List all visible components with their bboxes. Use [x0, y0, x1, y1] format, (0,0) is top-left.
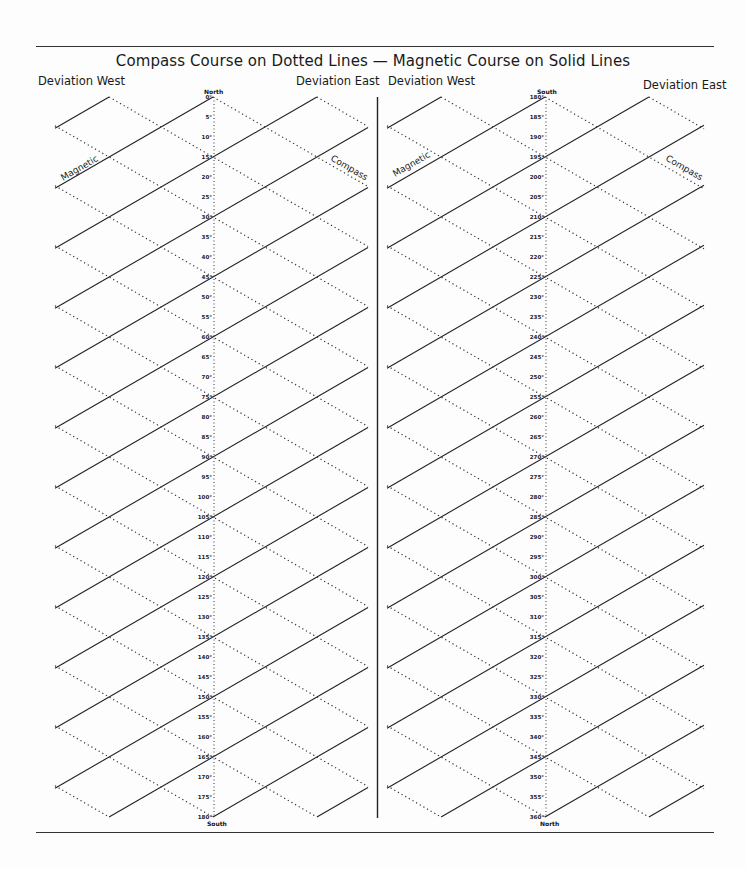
heading-tick-label: 115° — [198, 554, 212, 560]
heading-tick-label: 165° — [198, 754, 212, 760]
heading-tick-label: 275° — [530, 474, 544, 480]
heading-tick-label: 155° — [198, 714, 212, 720]
heading-tick-label: 175° — [198, 794, 212, 800]
heading-tick-label: 200° — [530, 174, 544, 180]
heading-tick-label: 205° — [530, 194, 544, 200]
left-heading-scale: 0°5°10°15°20°25°30°35°40°45°50°55°60°65°… — [198, 94, 214, 820]
heading-tick-label: 140° — [198, 654, 212, 660]
heading-tick-label: 190° — [530, 134, 544, 140]
heading-tick-label: 235° — [530, 314, 544, 320]
heading-tick-label: 210° — [530, 214, 544, 220]
heading-tick-label: 30° — [202, 214, 213, 220]
heading-tick-label: 195° — [530, 154, 544, 160]
heading-tick-label: 340° — [530, 734, 544, 740]
heading-tick-label: 295° — [530, 554, 544, 560]
heading-tick-label: 55° — [202, 314, 213, 320]
heading-tick-label: 100° — [198, 494, 212, 500]
heading-tick-label: 330° — [530, 694, 544, 700]
magnetic-course-line — [55, 97, 109, 128]
heading-tick-label: 110° — [198, 534, 212, 540]
heading-tick-label: 290° — [530, 534, 544, 540]
heading-tick-label: 310° — [530, 614, 544, 620]
heading-tick-label: 320° — [530, 654, 544, 660]
heading-tick-label: 60° — [202, 334, 213, 340]
right-compass-label: Compass — [664, 153, 705, 182]
heading-tick-label: 280° — [530, 494, 544, 500]
heading-tick-label: 265° — [530, 434, 544, 440]
left-compass-label: Compass — [329, 153, 370, 182]
magnetic-course-line — [109, 668, 368, 817]
heading-tick-label: 230° — [530, 294, 544, 300]
magnetic-course-line — [387, 97, 649, 248]
heading-tick-label: 90° — [202, 454, 213, 460]
heading-tick-label: 120° — [198, 574, 212, 580]
heading-tick-label: 80° — [202, 414, 213, 420]
compass-course-line — [387, 786, 441, 817]
magnetic-course-line — [55, 97, 213, 188]
heading-tick-label: 240° — [530, 334, 544, 340]
heading-tick-label: 135° — [198, 634, 212, 640]
magnetic-course-line — [213, 728, 368, 817]
heading-tick-label: 25° — [202, 194, 213, 200]
heading-tick-label: 255° — [530, 394, 544, 400]
right-top-cardinal: South — [537, 88, 557, 95]
compass-course-line — [55, 666, 317, 817]
compass-course-line — [387, 666, 649, 817]
magnetic-course-line — [55, 97, 317, 248]
heading-tick-label: 85° — [202, 434, 213, 440]
magnetic-course-line — [387, 97, 545, 188]
heading-tick-label: 10° — [202, 134, 213, 140]
heading-tick-label: 355° — [530, 794, 544, 800]
compass-course-line — [441, 97, 704, 249]
heading-tick-label: 125° — [198, 594, 212, 600]
bottom-rule — [36, 832, 714, 833]
heading-tick-label: 40° — [202, 254, 213, 260]
heading-tick-label: 35° — [202, 234, 213, 240]
compass-course-line — [55, 786, 109, 817]
heading-tick-label: 245° — [530, 354, 544, 360]
compass-course-line — [109, 97, 368, 246]
magnetic-course-line — [649, 785, 704, 817]
heading-tick-label: 350° — [530, 774, 544, 780]
heading-tick-label: 45° — [202, 274, 213, 280]
heading-tick-label: 260° — [530, 414, 544, 420]
left-top-cardinal: North — [204, 88, 223, 95]
compass-course-line — [649, 97, 704, 129]
magnetic-course-line — [387, 97, 441, 128]
heading-tick-label: 270° — [530, 454, 544, 460]
heading-tick-label: 215° — [530, 234, 544, 240]
magnetic-course-line — [441, 665, 704, 817]
deviation-diagram: 0°5°10°15°20°25°30°35°40°45°50°55°60°65°… — [0, 0, 746, 869]
magnetic-course-line — [317, 788, 368, 817]
heading-tick-label: 145° — [198, 674, 212, 680]
heading-tick-label: 5° — [205, 114, 212, 120]
compass-course-line — [55, 726, 213, 817]
heading-tick-label: 65° — [202, 354, 213, 360]
heading-tick-label: 20° — [202, 174, 213, 180]
heading-tick-label: 75° — [202, 394, 213, 400]
right-heading-scale: 180°185°190°195°200°205°210°215°220°225°… — [530, 94, 546, 820]
heading-tick-label: 50° — [202, 294, 213, 300]
heading-tick-label: 285° — [530, 514, 544, 520]
heading-tick-label: 95° — [202, 474, 213, 480]
heading-tick-label: 105° — [198, 514, 212, 520]
right-bottom-cardinal: North — [540, 820, 559, 827]
heading-tick-label: 220° — [530, 254, 544, 260]
heading-tick-label: 305° — [530, 594, 544, 600]
heading-tick-label: 130° — [198, 614, 212, 620]
heading-tick-label: 335° — [530, 714, 544, 720]
heading-tick-label: 225° — [530, 274, 544, 280]
heading-tick-label: 250° — [530, 374, 544, 380]
heading-tick-label: 325° — [530, 674, 544, 680]
heading-tick-label: 70° — [202, 374, 213, 380]
heading-tick-label: 185° — [530, 114, 544, 120]
right-panel-lines — [387, 97, 704, 817]
heading-tick-label: 300° — [530, 574, 544, 580]
heading-tick-label: 170° — [198, 774, 212, 780]
heading-tick-label: 315° — [530, 634, 544, 640]
compass-course-line — [317, 97, 368, 126]
left-bottom-cardinal: South — [207, 820, 227, 827]
heading-tick-label: 160° — [198, 734, 212, 740]
heading-tick-label: 345° — [530, 754, 544, 760]
heading-tick-label: 15° — [202, 154, 213, 160]
